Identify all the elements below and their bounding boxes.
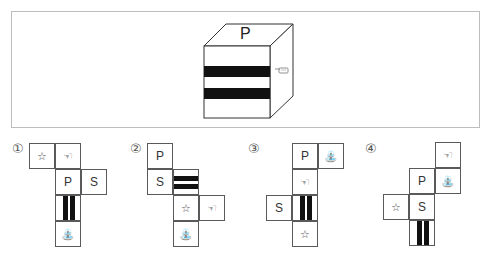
- net-cell-stripes: [55, 195, 81, 221]
- net-cell-stripes: [409, 220, 435, 246]
- star-icon: ☆: [181, 203, 191, 214]
- net-cell-stripes: [173, 169, 199, 195]
- star-icon: ☆: [391, 202, 401, 213]
- net-cell-p: P: [409, 168, 435, 194]
- option-3-label[interactable]: ③: [248, 142, 260, 155]
- letter-s: S: [90, 175, 98, 189]
- letter-p: P: [156, 149, 164, 163]
- vertical-stripes-icon: [293, 196, 317, 220]
- letter-p: P: [418, 174, 426, 188]
- net-cell-hand: ☜: [55, 143, 81, 169]
- letter-s: S: [156, 175, 164, 189]
- net-cell-s: S: [409, 194, 435, 220]
- net-cell-star: ☆: [383, 194, 409, 220]
- net-cell-star: ☆: [29, 143, 55, 169]
- pointing-hand-icon: ☜: [443, 150, 453, 161]
- net-cell-p: P: [292, 143, 318, 169]
- net-cell-star: ☆: [173, 195, 199, 221]
- pointing-hand-icon: ☜: [63, 151, 73, 162]
- net-cell-star: ☆: [292, 221, 318, 247]
- letter-s: S: [275, 201, 283, 215]
- horizontal-stripes-icon: [174, 170, 198, 194]
- pointing-hand-icon: ☜: [207, 203, 217, 214]
- star-icon: ☆: [300, 229, 310, 240]
- net-cell-s: S: [81, 169, 107, 195]
- net-cell-s: S: [147, 169, 173, 195]
- net-cell-s: S: [266, 195, 292, 221]
- star-icon: ☆: [37, 151, 47, 162]
- net-cell-fountain: ⛲: [435, 168, 461, 194]
- pointing-hand-icon: ☜: [300, 177, 310, 188]
- option-4-label[interactable]: ④: [365, 142, 377, 155]
- net-cell-fountain: ⛲: [55, 221, 81, 247]
- option-1-label[interactable]: ①: [12, 142, 24, 155]
- letter-s: S: [418, 200, 426, 214]
- fountain-icon: ⛲: [179, 229, 193, 240]
- net-cell-p: P: [55, 169, 81, 195]
- fountain-icon: ⛲: [61, 229, 75, 240]
- net-cell-p: P: [147, 143, 173, 169]
- vertical-stripes-icon: [410, 221, 434, 245]
- cube-stripe-1: [204, 66, 270, 77]
- net-cell-fountain: ⛲: [318, 143, 344, 169]
- letter-p: P: [64, 175, 72, 189]
- vertical-stripes-icon: [56, 196, 80, 220]
- letter-p: P: [301, 149, 309, 163]
- net-cell-hand: ☜: [292, 169, 318, 195]
- net-cell-hand: ☜: [435, 142, 461, 168]
- net-cell-stripes: [292, 195, 318, 221]
- net-cell-fountain: ⛲: [173, 221, 199, 247]
- fountain-icon: ⛲: [324, 151, 338, 162]
- cube-figure: [0, 0, 492, 140]
- net-cell-hand: ☜: [199, 195, 225, 221]
- fountain-icon: ⛲: [441, 176, 455, 187]
- cube-top-label: P: [240, 26, 251, 42]
- option-2-label[interactable]: ②: [130, 142, 142, 155]
- cube-stripe-2: [204, 88, 270, 99]
- cube-front-face: [204, 46, 270, 118]
